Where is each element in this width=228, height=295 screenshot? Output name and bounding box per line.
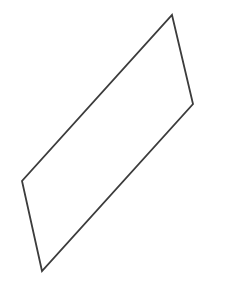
drawing-canvas bbox=[0, 0, 228, 295]
shape-canvas-svg bbox=[0, 0, 228, 295]
